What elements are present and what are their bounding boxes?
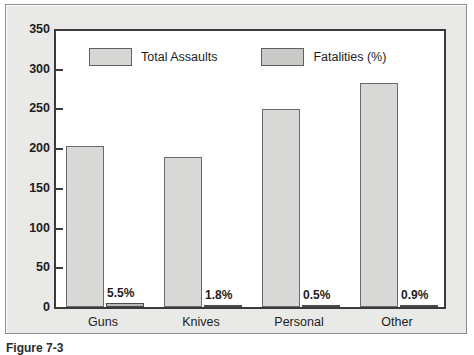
legend-item-total-assaults[interactable]: Total Assaults [89, 48, 217, 66]
plot-area: Total Assaults Fatalities (%) 5.5%1.8%0.… [54, 29, 446, 309]
y-tick-label-100: 100 [4, 221, 50, 235]
legend-label-total-assaults: Total Assaults [141, 50, 217, 64]
data-label-fatalities-personal: 0.5% [303, 288, 330, 302]
y-tick-mark-50 [54, 267, 63, 269]
legend-swatch-total-assaults-icon [89, 48, 132, 66]
y-tick-label-150: 150 [4, 181, 50, 195]
caption-prefix: Figure 7-3 [6, 341, 63, 355]
data-label-fatalities-other: 0.9% [401, 288, 428, 302]
figure-caption: Figure 7-3 [6, 341, 446, 355]
y-axis: 350300250200150100500 [0, 0, 50, 352]
legend-label-fatalities: Fatalities (%) [313, 50, 386, 64]
y-tick-mark-250 [54, 108, 63, 110]
x-tick-label-personal: Personal [274, 315, 323, 329]
chart-legend: Total Assaults Fatalities (%) [89, 48, 386, 66]
x-tick-label-knives: Knives [182, 315, 220, 329]
y-tick-label-350: 350 [4, 22, 50, 36]
bar-fatalities-other [400, 305, 438, 307]
bar-total-assaults-personal [262, 109, 300, 307]
y-tick-label-250: 250 [4, 101, 50, 115]
bar-fatalities-knives [204, 305, 242, 307]
y-tick-mark-300 [54, 69, 63, 71]
x-tick-label-guns: Guns [88, 315, 118, 329]
bar-fatalities-personal [302, 305, 340, 307]
y-tick-mark-150 [54, 188, 63, 190]
legend-item-fatalities[interactable]: Fatalities (%) [261, 48, 386, 66]
y-tick-label-50: 50 [4, 260, 50, 274]
bar-fatalities-guns [106, 303, 144, 307]
legend-swatch-fatalities-icon [261, 48, 304, 66]
bar-total-assaults-knives [164, 157, 202, 307]
y-tick-mark-100 [54, 228, 63, 230]
y-tick-label-300: 300 [4, 62, 50, 76]
x-tick-label-other: Other [381, 315, 412, 329]
y-tick-mark-200 [54, 148, 63, 150]
data-label-fatalities-guns: 5.5% [107, 286, 134, 300]
y-tick-label-200: 200 [4, 141, 50, 155]
bar-total-assaults-guns [66, 146, 104, 307]
data-label-fatalities-knives: 1.8% [205, 288, 232, 302]
bar-total-assaults-other [360, 83, 398, 307]
y-tick-label-0: 0 [4, 300, 50, 314]
